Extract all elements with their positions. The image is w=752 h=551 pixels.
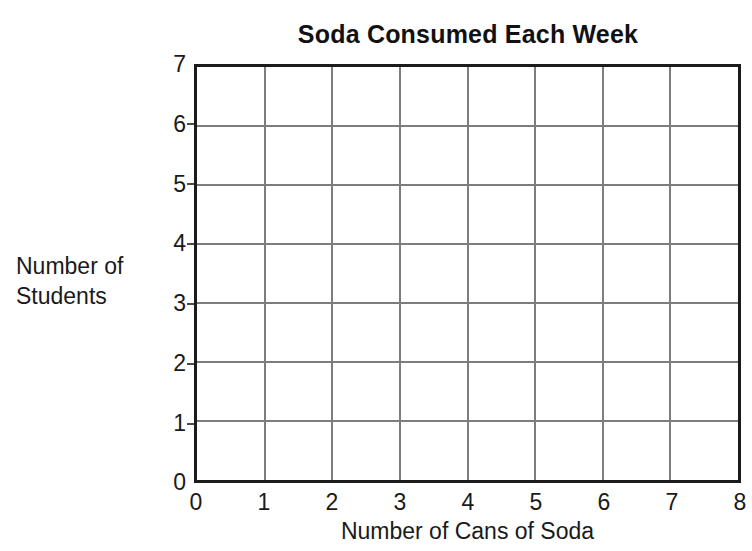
y-axis-tick-labels: 7 6 5 4 3 2 1 0 — [140, 0, 186, 551]
y-tick-label-7: 7 — [140, 53, 186, 76]
x-tick-label-8: 8 — [715, 489, 752, 516]
x-tick-label-4: 4 — [443, 489, 493, 516]
plot-area — [194, 64, 741, 483]
y-tick-label-1: 1 — [140, 412, 186, 435]
y-tick-label-2: 2 — [140, 352, 186, 375]
x-tick-label-1: 1 — [239, 489, 289, 516]
y-tick-label-3: 3 — [140, 292, 186, 315]
x-tick-label-2: 2 — [307, 489, 357, 516]
y-tick-label-4: 4 — [140, 232, 186, 255]
y-tick-label-6: 6 — [140, 113, 186, 136]
x-tick-label-3: 3 — [375, 489, 425, 516]
chart-title: Soda Consumed Each Week — [194, 20, 742, 49]
x-axis-title: Number of Cans of Soda — [194, 518, 741, 545]
x-tick-label-5: 5 — [511, 489, 561, 516]
x-tick-label-7: 7 — [647, 489, 697, 516]
chart-figure: Soda Consumed Each Week Number of Studen… — [0, 0, 752, 551]
grid-lines — [197, 67, 738, 480]
x-axis-tick-labels: 0 1 2 3 4 5 6 7 8 — [0, 489, 752, 519]
y-tick-label-5: 5 — [140, 173, 186, 196]
x-tick-label-0: 0 — [171, 489, 221, 516]
x-tick-label-6: 6 — [579, 489, 629, 516]
